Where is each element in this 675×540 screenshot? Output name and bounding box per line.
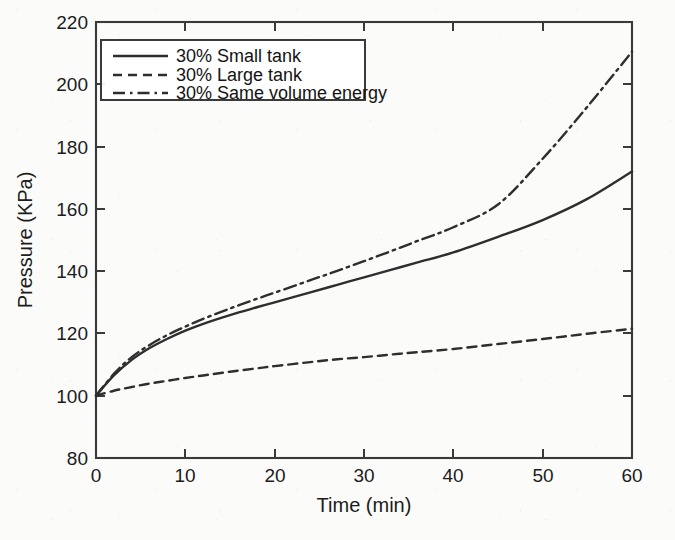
legend-label-same-volume-energy: 30% Same volume energy [176,83,387,103]
y-tick-label-180: 180 [56,137,88,158]
x-tick-label-30: 30 [353,465,374,486]
figure-page: 80 100 120 140 160 180 200 220 0 10 20 3… [0,0,675,540]
x-tick-label-0: 0 [91,465,102,486]
y-tick-label-160: 160 [56,199,88,220]
y-tick-label-140: 140 [56,261,88,282]
x-tick-label-60: 60 [621,465,642,486]
y-tick-label-100: 100 [56,386,88,407]
x-axis-title: Time (min) [317,494,412,516]
x-tick-label-20: 20 [264,465,285,486]
y-tick-label-200: 200 [56,74,88,95]
pressure-vs-time-line-chart: 80 100 120 140 160 180 200 220 0 10 20 3… [0,0,675,540]
series-line-large-tank [96,329,632,396]
legend-label-large-tank: 30% Large tank [176,65,303,85]
series-group [96,52,632,396]
chart-figure: 80 100 120 140 160 180 200 220 0 10 20 3… [0,0,675,540]
x-tick-label-40: 40 [442,465,463,486]
y-tick-label-220: 220 [56,12,88,33]
x-tick-label-50: 50 [532,465,553,486]
series-line-small-tank [96,171,632,395]
x-tick-label-10: 10 [174,465,195,486]
y-tick-label-120: 120 [56,323,88,344]
y-axis-title: Pressure (KPa) [14,172,36,309]
legend-label-small-tank: 30% Small tank [176,46,302,66]
legend[interactable]: 30% Small tank 30% Large tank 30% Same v… [101,40,387,103]
y-tick-label-80: 80 [67,448,88,469]
series-line-same-volume-energy [96,52,632,396]
